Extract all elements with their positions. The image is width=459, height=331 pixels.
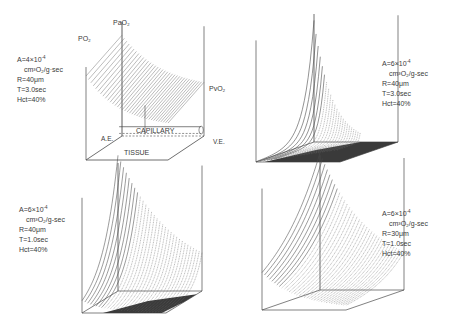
param-hct: Hct=40% xyxy=(19,246,65,254)
panel-bottom-left-params: A=6×10-4 cm³O₂/g-sec R=40μm T=1.0sec Hct… xyxy=(19,204,65,256)
param-hct: Hct=40% xyxy=(382,100,428,108)
param-a-unit: cm³O₂/g·sec xyxy=(17,66,63,74)
param-t: T=3.0sec xyxy=(17,86,63,94)
param-t: T=1.0sec xyxy=(382,240,428,248)
param-a: A=4×10-4 xyxy=(17,54,63,64)
param-r: R=30μm xyxy=(382,230,428,238)
param-a: A=6×10-4 xyxy=(382,58,428,68)
label-po2: PO₂ xyxy=(78,35,91,42)
param-t: T=3.0sec xyxy=(382,90,428,98)
label-tissue: TISSUE xyxy=(124,149,149,156)
param-r: R=40μm xyxy=(17,76,63,84)
panel-top-right-plot xyxy=(256,14,398,162)
param-a-unit: cm³O₂/g-sec xyxy=(19,216,65,224)
param-a-unit: cm³O₂/g-sec xyxy=(382,70,428,78)
param-hct: Hct=40% xyxy=(17,96,63,104)
param-r: R=40μm xyxy=(382,80,428,88)
label-ve: V.E. xyxy=(213,138,225,145)
param-a-unit: cm³O₂/g-sec xyxy=(382,220,428,228)
label-pao2: PaO₂ xyxy=(113,19,130,26)
figure-canvas xyxy=(0,0,459,331)
label-capillary: CAPILLARY xyxy=(136,127,174,134)
param-hct: Hct=40% xyxy=(382,250,428,258)
param-r: R=40μm xyxy=(19,226,65,234)
param-a: A=6×10-4 xyxy=(19,204,65,214)
label-ae: A.E. xyxy=(101,135,113,142)
panel-bottom-right-params: A=6×10-4 cm³O₂/g-sec R=30μm T=1.0sec Hct… xyxy=(382,208,428,260)
param-t: T=1.0sec xyxy=(19,236,65,244)
param-a: A=6×10-4 xyxy=(382,208,428,218)
label-pvo2: PvO₂ xyxy=(209,85,225,92)
panel-bottom-left-plot xyxy=(82,155,202,313)
panel-top-left-params: A=4×10-4 cm³O₂/g·sec R=40μm T=3.0sec Hct… xyxy=(17,54,63,106)
panel-top-right-params: A=6×10-4 cm³O₂/g-sec R=40μm T=3.0sec Hct… xyxy=(382,58,428,110)
